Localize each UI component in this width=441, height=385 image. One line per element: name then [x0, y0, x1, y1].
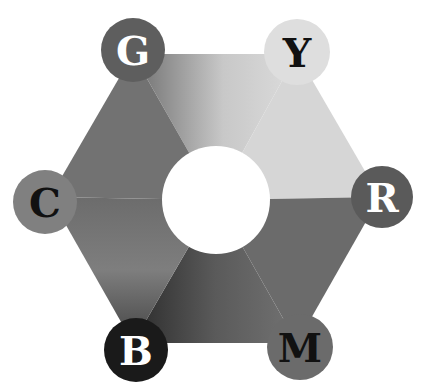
node-red: R	[351, 166, 413, 228]
node-label: B	[119, 327, 153, 374]
center-hole	[162, 146, 270, 254]
node-yellow: Y	[264, 19, 330, 85]
node-label: M	[278, 324, 322, 371]
color-hexagon-diagram: G Y R M B C	[0, 0, 441, 385]
node-label: G	[116, 27, 150, 74]
node-green: G	[101, 18, 165, 82]
node-label: R	[365, 174, 398, 221]
node-label: C	[29, 179, 61, 226]
node-label: Y	[283, 29, 312, 76]
node-blue: B	[104, 318, 168, 382]
node-cyan: C	[13, 170, 77, 234]
node-magenta: M	[267, 314, 333, 380]
